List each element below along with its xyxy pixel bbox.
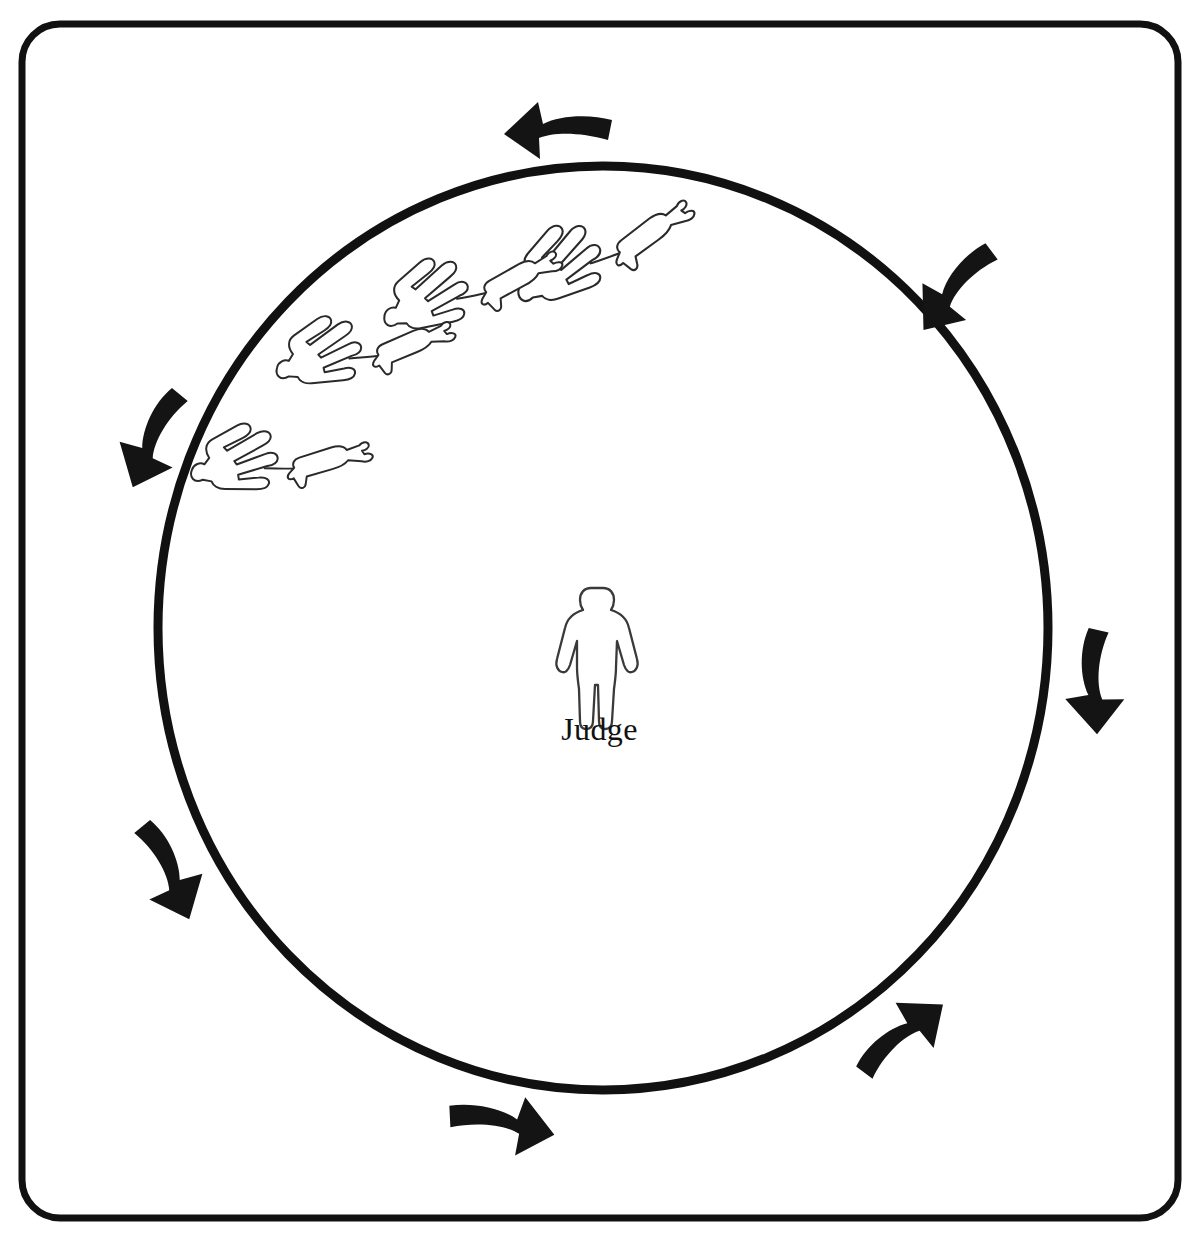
arrow-bottom — [444, 1087, 559, 1160]
ring-diagram-figure: Judge — [0, 0, 1199, 1246]
ring-diagram-canvas — [0, 0, 1199, 1246]
handler-dog-pair-4 — [185, 406, 376, 503]
judge-label: Judge — [0, 713, 1199, 745]
handler-dog-pair-1 — [498, 165, 705, 324]
arrow-top — [504, 102, 612, 159]
arrow-upper-right — [900, 230, 1013, 347]
arrow-upper-left — [104, 378, 206, 499]
judge-figure — [556, 588, 637, 729]
arrow-lower-right — [842, 980, 960, 1095]
